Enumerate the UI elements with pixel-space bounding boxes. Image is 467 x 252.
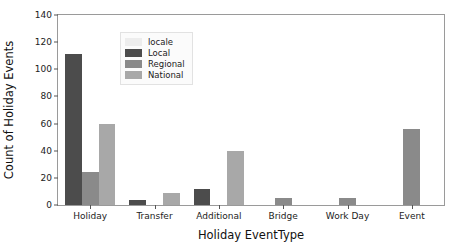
x-tick-mark-0: [90, 205, 91, 209]
plot-area: 020406080100120140 HolidayTransferAdditi…: [58, 15, 444, 205]
y-tick-mark-1: [54, 177, 58, 178]
legend-label-regional: Regional: [148, 59, 185, 69]
legend-swatch-regional: [125, 60, 142, 68]
bar-holiday-local: [65, 54, 82, 205]
legend-swatch-national: [125, 71, 142, 79]
y-tick-mark-2: [54, 150, 58, 151]
y-tick-label-2: 40: [41, 146, 52, 156]
bar-additional-local: [194, 189, 211, 205]
x-tick-mark-4: [348, 205, 349, 209]
legend-entries: LocalRegionalNational: [125, 47, 185, 80]
y-axis-label-text: Count of Holiday Events: [2, 41, 16, 179]
y-tick-label-7: 140: [35, 10, 52, 20]
y-tick-label-0: 0: [46, 200, 52, 210]
bar-work-day-regional: [339, 198, 356, 205]
x-tick-mark-1: [155, 205, 156, 209]
x-tick-mark-5: [412, 205, 413, 209]
x-tick-mark-2: [219, 205, 220, 209]
y-tick-mark-0: [54, 205, 58, 206]
y-tick-mark-7: [54, 15, 58, 16]
chart-figure: Count of Holiday Events 0204060801001201…: [0, 0, 467, 252]
x-tick-label-5: Event: [399, 211, 425, 221]
bar-additional-national: [227, 151, 244, 205]
x-tick-mark-3: [283, 205, 284, 209]
x-tick-label-3: Bridge: [268, 211, 297, 221]
x-tick-label-4: Work Day: [326, 211, 369, 221]
legend-entry-local: Local: [125, 47, 185, 58]
chart-legend: locale LocalRegionalNational: [120, 32, 193, 85]
bar-event-regional: [403, 129, 420, 205]
legend-entry-regional: Regional: [125, 58, 185, 69]
y-tick-mark-4: [54, 96, 58, 97]
y-axis-label: Count of Holiday Events: [2, 14, 16, 206]
y-tick-label-3: 60: [41, 119, 52, 129]
x-tick-label-1: Transfer: [136, 211, 172, 221]
legend-title-swatch: [125, 38, 142, 46]
y-tick-label-4: 80: [41, 91, 52, 101]
y-tick-mark-5: [54, 69, 58, 70]
bar-transfer-national: [163, 193, 180, 205]
legend-entry-national: National: [125, 69, 185, 80]
legend-swatch-local: [125, 49, 142, 57]
x-tick-label-2: Additional: [196, 211, 241, 221]
y-tick-label-1: 20: [41, 173, 52, 183]
y-tick-label-5: 100: [35, 64, 52, 74]
bar-holiday-national: [99, 124, 116, 205]
bar-transfer-local: [129, 200, 146, 205]
y-tick-mark-6: [54, 42, 58, 43]
bar-bridge-regional: [275, 198, 292, 205]
legend-label-national: National: [148, 70, 183, 80]
legend-label-local: Local: [148, 48, 170, 58]
y-tick-label-6: 120: [35, 37, 52, 47]
x-tick-label-0: Holiday: [73, 211, 107, 221]
y-tick-mark-3: [54, 123, 58, 124]
legend-title-text: locale: [148, 37, 173, 47]
legend-title-row: locale: [125, 36, 185, 47]
x-axis-label: Holiday EventType: [57, 228, 445, 242]
bar-holiday-regional: [82, 172, 99, 205]
